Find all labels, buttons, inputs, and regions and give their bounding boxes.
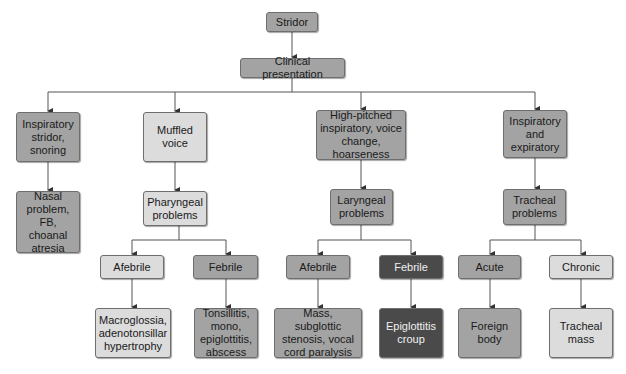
node-label: Afebrile <box>113 261 150 274</box>
node-clinical-presentation: Clinical presentation <box>240 58 345 78</box>
node-label: Stridor <box>276 16 308 29</box>
node-laryngeal-febrile: Febrile <box>379 255 443 279</box>
node-label: Febrile <box>394 261 428 274</box>
node-pharyngeal-afebrile: Afebrile <box>100 255 164 279</box>
node-label: Laryngeal problems <box>333 194 390 220</box>
node-tracheal-problems: Tracheal problems <box>503 189 566 225</box>
node-label: Foreign body <box>461 320 518 346</box>
node-label: Acute <box>475 261 503 274</box>
node-laryngeal-problems: Laryngeal problems <box>330 189 393 225</box>
node-label: High-pitched inspiratory, voice change, … <box>319 109 403 161</box>
node-tonsillitis: Tonsillitis, mono, epiglottitis, abscess <box>194 308 258 358</box>
node-macroglossia: Macroglossia, adenotonsillar hypertrophy <box>95 308 171 358</box>
node-inspiratory-stridor-snoring: Inspiratory stridor, snoring <box>16 112 80 162</box>
node-label: Clinical presentation <box>243 55 342 81</box>
node-label: Nasal problem, FB, choanal atresia <box>19 190 77 255</box>
node-stridor: Stridor <box>266 12 318 32</box>
node-label: Muffled voice <box>146 124 204 150</box>
node-tracheal-chronic: Chronic <box>549 255 613 279</box>
node-label: Inspiratory stridor, snoring <box>19 118 77 157</box>
node-inspiratory-expiratory: Inspiratory and expiratory <box>503 110 567 158</box>
node-label: Chronic <box>562 261 600 274</box>
node-pharyngeal-febrile: Febrile <box>193 255 258 279</box>
node-tracheal-mass: Tracheal mass <box>549 308 613 358</box>
node-pharyngeal-problems: Pharyngeal problems <box>143 191 207 226</box>
node-label: Tracheal problems <box>506 194 563 220</box>
node-mass-subglottic: Mass, subglottic stenosis, vocal cord pa… <box>274 308 362 358</box>
node-label: Inspiratory and expiratory <box>505 115 564 154</box>
node-epiglottitis-croup: Epiglottitis croup <box>379 308 443 358</box>
node-tracheal-acute: Acute <box>458 255 521 279</box>
node-label: Afebrile <box>299 261 336 274</box>
node-label: Tonsillitis, mono, epiglottitis, abscess <box>197 307 255 359</box>
node-label: Febrile <box>209 261 243 274</box>
node-laryngeal-afebrile: Afebrile <box>286 255 350 279</box>
node-label: Macroglossia, adenotonsillar hypertrophy <box>98 314 168 353</box>
node-foreign-body: Foreign body <box>458 308 521 358</box>
stridor-flowchart: Stridor Clinical presentation Inspirator… <box>0 0 626 374</box>
node-label: Pharyngeal problems <box>146 196 204 222</box>
node-label: Epiglottitis croup <box>382 320 440 346</box>
node-muffled-voice: Muffled voice <box>143 112 207 162</box>
node-label: Tracheal mass <box>552 320 610 346</box>
node-nasal-problem: Nasal problem, FB, choanal atresia <box>16 191 80 253</box>
node-high-pitched: High-pitched inspiratory, voice change, … <box>316 110 406 160</box>
node-label: Mass, subglottic stenosis, vocal cord pa… <box>277 307 359 359</box>
